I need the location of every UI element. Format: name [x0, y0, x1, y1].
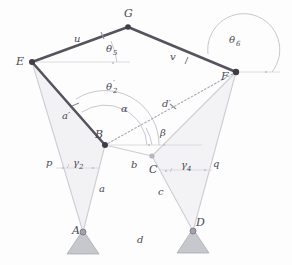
tick-B-ray-2 [163, 144, 165, 146]
joint-E [29, 59, 35, 65]
label-point-E: E [15, 55, 24, 68]
label-length-p: p [46, 157, 53, 168]
label-point-C: C [149, 163, 158, 176]
joint-G [125, 24, 131, 30]
shaded-regions [32, 62, 236, 232]
label-angle-theta-2-prime-mark: ′ [113, 79, 115, 87]
tick-B-ray-1 [148, 144, 150, 146]
joint-C [149, 153, 154, 158]
label-angle-theta-5: θ 5 [106, 43, 118, 57]
arc-theta-6 [208, 14, 280, 72]
link-GF [128, 27, 236, 72]
label-length-a-prime: a′ [62, 110, 71, 121]
joint-A [80, 229, 86, 235]
label-angle-alpha: α [121, 103, 128, 114]
tick-p-ray-1 [62, 167, 64, 169]
label-angle-theta-2-prime-base: θ [106, 81, 112, 92]
label-angle-beta-base: β [159, 127, 166, 138]
label-angle-theta-2-prime: θ 2 ′ [106, 79, 118, 95]
label-length-d: d [137, 234, 143, 245]
label-length-u: u [74, 33, 80, 44]
tick-F-ray [265, 71, 267, 73]
link-BC [105, 145, 152, 156]
label-length-d-prime: d′ [162, 98, 171, 109]
tick-q-ray-2 [204, 169, 206, 171]
label-angle-beta: β [159, 127, 166, 138]
label-angle-gamma-2-sub: 2 [78, 163, 84, 171]
label-angle-theta-6-sub: 6 [236, 40, 241, 48]
linkage-diagram: A B C D E F G u v a′ a b c d d′ p q θ 5 [0, 0, 292, 265]
label-point-A: A [71, 224, 80, 237]
label-length-b: b [131, 159, 137, 170]
label-angle-theta-6-base: θ [229, 34, 235, 45]
tick-E-ray [112, 62, 114, 64]
label-angle-theta-5-base: θ [106, 43, 112, 54]
region-CDF [152, 72, 236, 231]
label-length-v: v [170, 51, 176, 62]
tick-link-EB [72, 103, 79, 106]
label-point-G: G [124, 7, 133, 20]
label-length-c: c [158, 186, 164, 197]
tick-link-GF [185, 57, 188, 64]
label-point-F: F [220, 70, 229, 83]
label-length-a: a [99, 183, 105, 194]
region-AEB [32, 62, 105, 232]
label-angle-theta-5-sub: 5 [113, 49, 118, 57]
label-angle-alpha-base: α [121, 103, 128, 114]
label-angle-theta-6: θ 6 [229, 34, 241, 48]
label-point-D: D [195, 216, 205, 229]
label-length-q: q [213, 158, 219, 169]
tick-p-ray-2 [92, 167, 94, 169]
joint-B [102, 142, 108, 148]
tick-q-ray-1 [165, 170, 167, 172]
label-angle-theta-2-prime-sub: 2 [112, 87, 118, 95]
joint-F [233, 69, 239, 75]
label-point-B: B [94, 128, 103, 141]
label-angle-gamma-4-sub: 4 [186, 165, 191, 173]
